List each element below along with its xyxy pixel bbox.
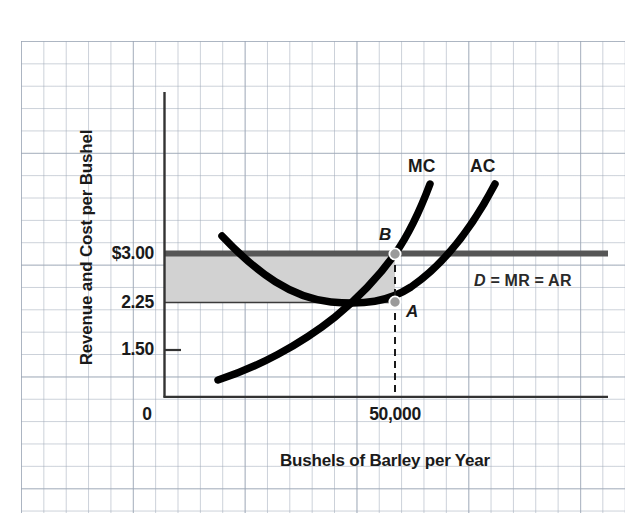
y-tick-label-150: 1.50 [62, 341, 154, 359]
economics-graph-figure: Revenue and Cost per Bushel Bushels of B… [0, 0, 644, 528]
y-tick-label-225: 2.25 [62, 294, 154, 312]
marginal-cost-curve-label: MC [408, 158, 436, 176]
point-a-marker [389, 296, 400, 307]
point-b-marker [389, 248, 400, 259]
x-tick-label-50000: 50,000 [335, 406, 455, 424]
x-axis-title: Bushels of Barley per Year [235, 452, 535, 469]
plot-canvas [0, 0, 644, 528]
average-cost-curve-label: AC [470, 158, 496, 176]
y-tick-label-300: $3.00 [62, 245, 154, 263]
point-a-label: A [406, 303, 418, 320]
point-b-label: B [379, 226, 391, 243]
origin-label: 0 [136, 406, 158, 424]
demand-equation-rest: = MR = AR [486, 272, 572, 289]
demand-symbol: D [474, 272, 486, 289]
demand-line-label: D = MR = AR [474, 273, 572, 289]
